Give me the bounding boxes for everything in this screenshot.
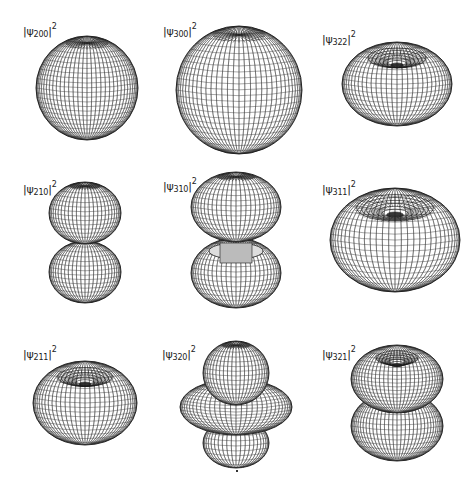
panel-psi200: |ψ200|2	[0, 0, 155, 160]
panel-psi322: |ψ322|2	[315, 0, 473, 160]
panel-psi320: |ψ320|2	[155, 325, 315, 481]
large-torus-orbital-icon	[315, 165, 473, 325]
dumbbell-inner-ring-orbital-icon	[155, 165, 315, 325]
large-sphere-orbital-icon	[155, 0, 315, 165]
panel-psi300: |ψ300|2	[155, 0, 315, 165]
double-torus-orbital-icon	[315, 325, 473, 481]
page-mark	[236, 470, 238, 472]
panel-psi321: |ψ321|2	[315, 325, 473, 481]
panel-psi311: |ψ311|2	[315, 165, 473, 325]
sphere-orbital-icon	[0, 0, 155, 160]
torus-orbital-icon	[0, 325, 155, 481]
dumbbell-ring-orbital-icon	[155, 325, 315, 481]
torus-orbital-icon	[315, 0, 473, 160]
panel-psi310: |ψ310|2	[155, 165, 315, 325]
panel-psi211: |ψ211|2	[0, 325, 155, 481]
dumbbell-orbital-icon	[0, 165, 155, 325]
panel-psi210: |ψ210|2	[0, 165, 155, 325]
